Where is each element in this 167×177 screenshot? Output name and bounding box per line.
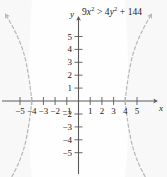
y-tick-label-5: 5 bbox=[68, 32, 73, 41]
x-tick-label--4: −4 bbox=[27, 107, 37, 116]
hyperbola-inequality-figure: 9x2 > 4y2 + 144 x y −5 −4 −3 −2 −1 1 2 3… bbox=[0, 0, 167, 177]
y-tick-label--4: −4 bbox=[62, 135, 72, 144]
y-tick-label-1: 1 bbox=[68, 84, 73, 93]
y-tick-label--2: −2 bbox=[62, 110, 72, 119]
title-plus: + bbox=[120, 7, 125, 17]
x-tick-label-5: 5 bbox=[135, 107, 140, 116]
title-constant: 144 bbox=[128, 7, 143, 17]
y-tick-label-2: 2 bbox=[68, 71, 73, 80]
title-rhs-exp: 2 bbox=[114, 5, 117, 12]
x-tick-label--2: −2 bbox=[50, 107, 60, 116]
title-relation: > bbox=[97, 7, 102, 17]
inequality-title: 9x2 > 4y2 + 144 bbox=[82, 5, 142, 17]
x-tick-label--5: −5 bbox=[15, 107, 25, 116]
y-axis bbox=[75, 18, 83, 174]
y-tick-label--5: −5 bbox=[62, 148, 72, 157]
x-tick-label-4: 4 bbox=[123, 107, 128, 116]
y-tick-label-4: 4 bbox=[68, 45, 73, 54]
plot-canvas bbox=[0, 0, 167, 177]
x-tick-label--3: −3 bbox=[39, 107, 49, 116]
x-tick-label-1: 1 bbox=[88, 107, 93, 116]
y-axis-label: y bbox=[70, 10, 74, 19]
x-axis-label: x bbox=[159, 104, 163, 113]
title-lhs-exp: 2 bbox=[91, 5, 94, 12]
x-tick-label-2: 2 bbox=[100, 107, 105, 116]
y-tick-label--3: −3 bbox=[62, 122, 72, 131]
y-tick-label-3: 3 bbox=[68, 58, 73, 67]
x-tick-label-3: 3 bbox=[111, 107, 116, 116]
shaded-region bbox=[0, 0, 167, 177]
